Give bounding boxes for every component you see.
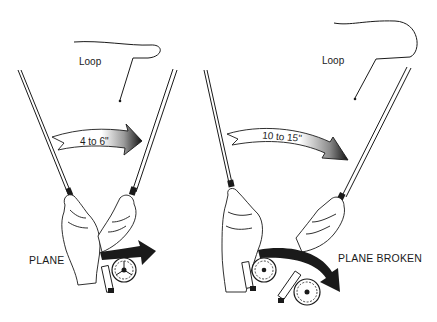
left-distance-label: 4 to 6" <box>80 136 109 147</box>
left-loop-label: Loop <box>79 56 102 67</box>
left-reel-icon <box>101 258 136 293</box>
left-panel: Loop 4 to 6" <box>18 42 177 293</box>
right-distance-arrow-icon: 10 to 15" <box>227 128 348 160</box>
right-reel-forward-icon <box>278 271 320 305</box>
right-caption: PLANE BROKEN <box>338 252 422 264</box>
right-rod-forward-icon <box>337 67 411 202</box>
right-reel-back-icon <box>242 258 276 291</box>
left-distance-arrow-icon: 4 to 6" <box>52 124 142 155</box>
left-loop-line-icon <box>74 42 160 100</box>
right-loop-line-icon <box>334 21 417 98</box>
left-caption: PLANE <box>29 254 64 266</box>
fly-casting-illustration: Loop 4 to 6" <box>0 0 437 322</box>
left-rod-forward-icon <box>129 69 177 196</box>
right-panel: Loop 10 to 15" <box>204 21 422 305</box>
right-rod-back-icon <box>204 70 235 188</box>
right-loop-label: Loop <box>322 55 345 66</box>
